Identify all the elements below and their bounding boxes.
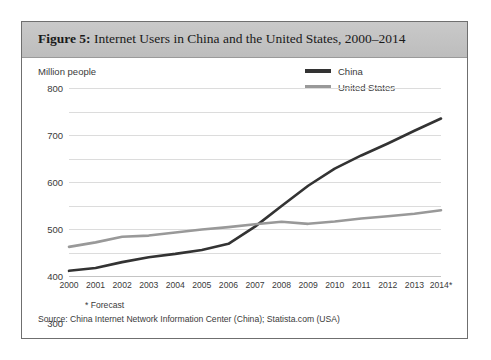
legend-swatch-china (305, 69, 331, 73)
chart-plot-area: Million people China United States 80070… (22, 58, 467, 340)
chart-footnote: * Forecast (85, 300, 124, 310)
x-axis-tick-2014: 2014* (430, 280, 452, 290)
x-axis-tick-2008: 2008 (272, 280, 291, 290)
y-axis-tick-500: 500 (47, 225, 63, 235)
legend-item-china: China (305, 64, 445, 78)
gridline-0: 0 (69, 276, 441, 277)
x-axis-tick-2011: 2011 (352, 280, 370, 290)
x-axis-tick-2010: 2010 (325, 280, 344, 290)
x-axis-tick-2012: 2012 (378, 280, 397, 290)
x-axis-tick-2004: 2004 (166, 280, 185, 290)
y-axis-unit-label: Million people (38, 66, 96, 77)
line-series-united-states (69, 210, 441, 247)
x-axis-tick-2002: 2002 (113, 280, 132, 290)
x-axis-labels: 2000200120022003200420052006200720082009… (69, 280, 441, 294)
figure-title-band: Figure 5: Internet Users in China and th… (22, 22, 467, 58)
chart-lines (69, 88, 441, 276)
figure-title-text: Internet Users in China and the United S… (91, 31, 406, 46)
x-axis-tick-2001: 2001 (86, 280, 105, 290)
chart-grid: 8007006005004003002001000 (69, 88, 441, 276)
chart-source: Source: China Internet Network Informati… (38, 314, 340, 324)
y-axis-tick-600: 600 (47, 178, 63, 188)
y-axis-tick-800: 800 (47, 84, 63, 94)
x-axis-tick-2003: 2003 (139, 280, 158, 290)
legend-label-china: China (338, 66, 363, 77)
figure-container: Figure 5: Internet Users in China and th… (21, 21, 468, 339)
x-axis-tick-2000: 2000 (59, 280, 78, 290)
x-axis-tick-2005: 2005 (192, 280, 211, 290)
x-axis-tick-2007: 2007 (245, 280, 264, 290)
figure-number-label: Figure 5: (38, 31, 91, 46)
x-axis-tick-2009: 2009 (299, 280, 318, 290)
y-axis-tick-700: 700 (47, 131, 63, 141)
figure-title: Figure 5: Internet Users in China and th… (38, 31, 406, 47)
x-axis-tick-2006: 2006 (219, 280, 238, 290)
line-series-china (69, 119, 441, 271)
x-axis-tick-2013: 2013 (405, 280, 424, 290)
